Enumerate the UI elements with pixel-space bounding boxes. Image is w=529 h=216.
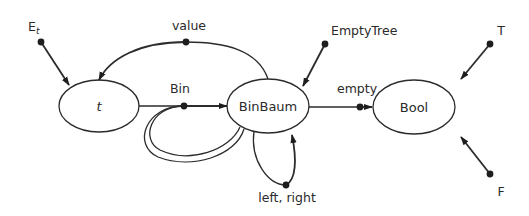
node-t-label: t	[96, 99, 102, 114]
empty-dot-icon	[357, 104, 364, 111]
node-bool-label: Bool	[400, 100, 428, 115]
t-const-label: T	[496, 23, 505, 38]
e-t-dot-icon	[38, 39, 45, 46]
operation-F: F	[461, 137, 505, 199]
node-bool: Bool	[373, 80, 455, 134]
f-const-label: F	[497, 184, 504, 199]
signature-diagram: t BinBaum Bool Et value Bin EmptyTree	[0, 0, 529, 216]
empty-label: empty	[337, 81, 378, 96]
e-t-label: Et	[28, 19, 40, 36]
left-right-dot-icon	[283, 182, 290, 189]
node-t: t	[59, 80, 139, 132]
value-dot-icon	[183, 39, 190, 46]
t-const-dot-icon	[487, 41, 494, 48]
operation-T: T	[461, 23, 505, 79]
operation-left-right: left, right	[253, 131, 315, 205]
bin-label: Bin	[170, 81, 190, 96]
operation-empty: empty	[309, 81, 378, 110]
operation-e-t: Et	[28, 19, 69, 85]
bin-dot-icon	[181, 103, 188, 110]
emptytree-label: EmptyTree	[331, 23, 398, 38]
value-label: value	[172, 18, 206, 33]
emptytree-dot-icon	[322, 41, 329, 48]
node-binbaum: BinBaum	[227, 79, 309, 133]
f-const-dot-icon	[487, 171, 494, 178]
node-binbaum-label: BinBaum	[239, 99, 298, 114]
left-right-label: left, right	[258, 190, 316, 205]
operation-bin: Bin	[139, 81, 244, 162]
operation-value: value	[99, 18, 268, 80]
operation-emptytree: EmptyTree	[303, 23, 398, 86]
